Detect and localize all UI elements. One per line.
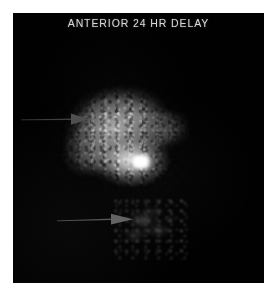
- secondary-speckle-texture: [113, 198, 191, 260]
- secondary-uptake-region: [113, 198, 191, 260]
- study-label: ANTERIOR 24 HR DELAY: [13, 17, 264, 29]
- nuclear-medicine-scan-viewer: ANTERIOR 24 HR DELAY: [0, 0, 274, 302]
- trace-activity: [115, 225, 161, 241]
- uptake-lobe: [57, 81, 189, 201]
- primary-uptake-region: [57, 81, 189, 201]
- arrow-secondary: [55, 209, 135, 229]
- scintigraphy-image[interactable]: ANTERIOR 24 HR DELAY: [13, 13, 264, 283]
